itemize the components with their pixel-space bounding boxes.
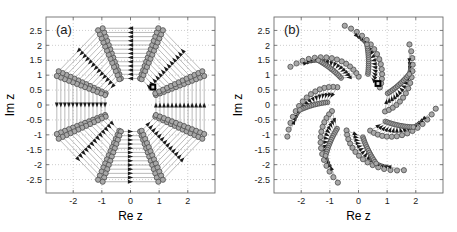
y-axis-label: Im z: [3, 94, 17, 117]
svg-text:-0.5: -0.5: [254, 115, 270, 125]
svg-text:-2: -2: [69, 196, 77, 206]
svg-text:2.5: 2.5: [29, 26, 42, 36]
svg-text:0: 0: [37, 100, 42, 110]
svg-text:0: 0: [128, 196, 133, 206]
svg-text:2.5: 2.5: [257, 26, 270, 36]
svg-text:2: 2: [185, 196, 190, 206]
plot-canvas-b: -2-10122.521.510.50-0.5-1-1.5-2-2.5Re zI…: [228, 0, 456, 232]
svg-text:-2.5: -2.5: [254, 175, 270, 185]
svg-text:1: 1: [265, 70, 270, 80]
svg-text:1.5: 1.5: [257, 55, 270, 65]
svg-text:2: 2: [37, 41, 42, 51]
svg-text:0.5: 0.5: [257, 85, 270, 95]
svg-text:-2.5: -2.5: [26, 175, 42, 185]
plot-panel-a: -2-10122.521.510.50-0.5-1-1.5-2-2.5Re zI…: [0, 0, 228, 232]
panel-tag: (b): [284, 22, 300, 37]
svg-text:-2: -2: [297, 196, 305, 206]
x-axis-label: Re z: [118, 209, 143, 223]
x-axis-label: Re z: [346, 209, 371, 223]
figure-container: -2-10122.521.510.50-0.5-1-1.5-2-2.5Re zI…: [0, 0, 457, 232]
svg-text:-2: -2: [34, 160, 42, 170]
y-axis-label: Im z: [231, 94, 245, 117]
svg-text:1: 1: [385, 196, 390, 206]
svg-text:0.5: 0.5: [29, 85, 42, 95]
svg-text:-1: -1: [326, 196, 334, 206]
panel-tag: (a): [56, 22, 72, 37]
svg-text:1: 1: [157, 196, 162, 206]
svg-text:-1: -1: [262, 130, 270, 140]
svg-text:1: 1: [37, 70, 42, 80]
svg-text:-2: -2: [262, 160, 270, 170]
svg-text:-1: -1: [98, 196, 106, 206]
svg-text:-0.5: -0.5: [26, 115, 42, 125]
svg-text:-1: -1: [34, 130, 42, 140]
svg-text:0: 0: [265, 100, 270, 110]
svg-text:-1.5: -1.5: [26, 145, 42, 155]
svg-text:0: 0: [356, 196, 361, 206]
svg-text:2: 2: [413, 196, 418, 206]
svg-text:-1.5: -1.5: [254, 145, 270, 155]
plot-canvas-a: -2-10122.521.510.50-0.5-1-1.5-2-2.5Re zI…: [0, 0, 228, 232]
svg-text:2: 2: [265, 41, 270, 51]
plot-panel-b: -2-10122.521.510.50-0.5-1-1.5-2-2.5Re zI…: [228, 0, 456, 232]
svg-text:1.5: 1.5: [29, 55, 42, 65]
